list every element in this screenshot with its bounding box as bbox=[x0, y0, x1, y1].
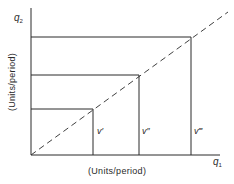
isoquant-label-v3: v‴ bbox=[194, 127, 202, 136]
y-axis-symbol: q2 bbox=[14, 13, 23, 24]
y-subscript: 2 bbox=[20, 18, 23, 24]
leontief-isoquant-diagram bbox=[0, 0, 234, 184]
isoquant-label-v1: v′ bbox=[97, 127, 103, 136]
x-subscript: 1 bbox=[219, 162, 222, 168]
x-axis-symbol: q1 bbox=[213, 157, 222, 168]
isoquant-v3 bbox=[31, 37, 191, 155]
y-axis-units-label: (Units/period) bbox=[8, 53, 17, 111]
x-axis-units-label: (Units/period) bbox=[88, 167, 146, 176]
isoquant-label-v2: v″ bbox=[142, 127, 150, 136]
